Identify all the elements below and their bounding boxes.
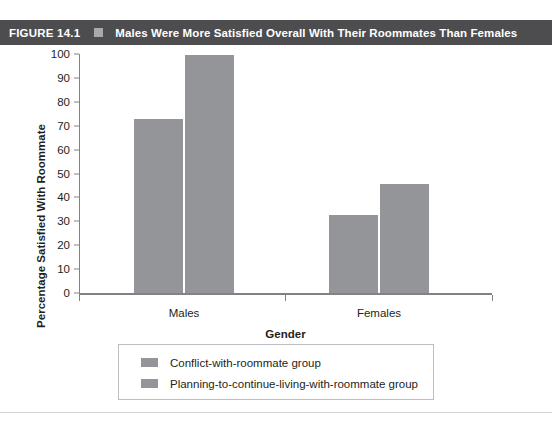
y-axis-tick-label: 70 — [57, 120, 70, 132]
y-axis-tick-label: 10 — [57, 263, 70, 275]
bar — [185, 55, 234, 293]
x-axis-category-label: Males — [169, 307, 200, 319]
y-axis-tick-label: 20 — [57, 239, 70, 251]
legend-item-label: Conflict-with-roommate group — [170, 357, 321, 369]
legend-item: Conflict-with-roommate group — [119, 352, 433, 373]
legend-item-label: Planning-to-continue-living-with-roommat… — [170, 378, 418, 390]
y-axis-tick-label: 80 — [57, 96, 70, 108]
bar-chart: Percentage Satisfied With Roommate 01020… — [0, 45, 552, 395]
bar — [134, 119, 183, 293]
chart-legend: Conflict-with-roommate group Planning-to… — [118, 344, 434, 400]
y-axis-tick-label: 100 — [51, 48, 70, 60]
legend-swatch-icon — [141, 358, 158, 367]
y-axis-tick-label: 30 — [57, 215, 70, 227]
figure-title: Males Were More Satisfied Overall With T… — [115, 27, 517, 39]
y-axis-tick-labels: 0102030405060708090100 — [44, 54, 74, 293]
y-axis-tick-label: 0 — [64, 287, 70, 299]
legend-swatch-icon — [141, 379, 158, 388]
plot-area — [79, 54, 492, 293]
x-axis-tick-mark — [492, 295, 493, 301]
bar — [380, 184, 429, 293]
y-axis-tick-label: 40 — [57, 191, 70, 203]
legend-item: Planning-to-continue-living-with-roommat… — [119, 373, 433, 394]
x-axis-category-label: Females — [357, 307, 401, 319]
x-axis-title: Gender — [79, 328, 492, 340]
y-axis-tick-label: 90 — [57, 72, 70, 84]
y-axis-tick-label: 60 — [57, 144, 70, 156]
square-bullet-icon — [94, 28, 103, 37]
figure-footer-rule — [0, 412, 552, 413]
x-axis-tick-mark — [79, 295, 80, 301]
bar — [329, 215, 378, 293]
figure-number: FIGURE 14.1 — [9, 27, 80, 39]
figure-title-bar: FIGURE 14.1 Males Were More Satisfied Ov… — [0, 20, 552, 45]
y-axis-tick-label: 50 — [57, 168, 70, 180]
x-axis-tick-mark — [285, 295, 286, 301]
